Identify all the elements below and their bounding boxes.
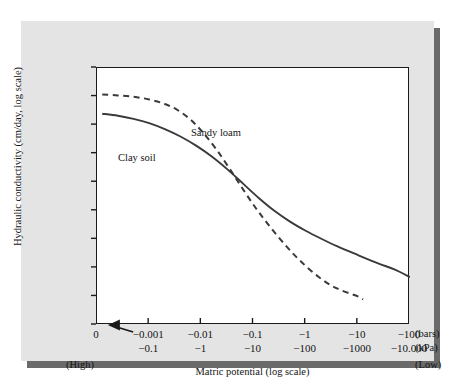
- x-axis-tick-labels-kpa: −0.1−1−10−100−1000−10.000: [21, 342, 434, 356]
- x-axis-unit-bars: (bars): [415, 328, 440, 339]
- x-axis-high-annotation: (High): [66, 359, 94, 370]
- x-axis-title: Matric potential (log scale): [96, 366, 409, 377]
- x-axis-tick-label-kpa: −0.1: [138, 342, 158, 354]
- x-axis-tick-label-bars: −0.001: [133, 328, 164, 340]
- series-curve-clay-soil: [102, 114, 410, 277]
- series-curve-sandy-loam: [102, 95, 363, 300]
- x-axis-tick-label-bars: 0: [93, 328, 99, 340]
- x-axis-tick-label-bars: −0.1: [243, 328, 263, 340]
- x-axis-tick-label-kpa: −1: [194, 342, 206, 354]
- figure-root: 10310210110-110-210-310-410-510-6 Hydrau…: [0, 0, 468, 388]
- x-axis-tick-label-bars: −1: [299, 328, 311, 340]
- series-label-clay-soil: Clay soil: [118, 152, 156, 163]
- x-axis-tick-label-kpa: −100: [293, 342, 316, 354]
- x-axis-tick-label-kpa: −1000: [343, 342, 371, 354]
- plot-curves: [97, 68, 410, 325]
- x-axis-tick-labels-bars: 0−0.001−0.01−0.1−1−10−100: [21, 328, 434, 342]
- y-axis-title: Hydraulic conductivity (cm/day, log scal…: [12, 7, 23, 307]
- x-axis-tick-label-bars: −0.01: [188, 328, 213, 340]
- x-axis-low-annotation: (Low): [415, 359, 441, 370]
- series-label-sandy-loam: Sandy loam: [191, 127, 241, 138]
- x-axis-tick-label-kpa: −10: [244, 342, 261, 354]
- plot-area: [96, 67, 409, 324]
- x-axis-tick-label-bars: −10: [348, 328, 365, 340]
- x-axis-unit-kpa: (kPa): [415, 342, 438, 353]
- figure-panel: 10310210110-110-210-310-410-510-6 Hydrau…: [21, 21, 434, 361]
